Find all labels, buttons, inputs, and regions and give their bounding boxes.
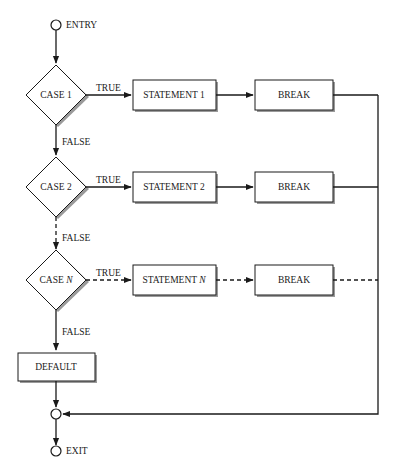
case-1-row: CASE 1 TRUE STATEMENT 1 BREAK [26, 65, 378, 127]
default-node: DEFAULT [18, 353, 97, 383]
entry-circle-icon [51, 20, 61, 30]
entry-label: ENTRY [66, 20, 97, 30]
case-2-label: CASE 2 [40, 182, 72, 192]
entry-node: ENTRY [51, 20, 97, 30]
case-1-true-label: TRUE [96, 83, 121, 93]
statement-1-label: STATEMENT 1 [143, 90, 205, 100]
case-2-false-label: FALSE [62, 233, 91, 243]
exit-label: EXIT [66, 446, 88, 456]
case-2-true-label: TRUE [96, 175, 121, 185]
case-n-label: CASE N [39, 275, 73, 285]
statement-n-label: STATEMENT N [142, 275, 206, 285]
case-n-true-label: TRUE [96, 268, 121, 278]
break-1-label: BREAK [278, 90, 310, 100]
exit-circle-icon [51, 446, 61, 456]
break-return-line [63, 95, 378, 414]
break-2-label: BREAK [278, 182, 310, 192]
switch-flowchart: ENTRY CASE 1 TRUE STATEMENT 1 BREAK FALS… [0, 0, 395, 467]
case-n-false-label: FALSE [62, 327, 91, 337]
case-n-row: CASE N TRUE STATEMENT N BREAK [26, 250, 378, 312]
merge-circle-icon [51, 409, 61, 419]
default-label: DEFAULT [35, 362, 77, 372]
case-2-row: CASE 2 TRUE STATEMENT 2 BREAK [26, 157, 378, 219]
exit-node: EXIT [51, 446, 88, 456]
statement-2-label: STATEMENT 2 [143, 182, 205, 192]
case-1-label: CASE 1 [40, 90, 72, 100]
case-1-false-label: FALSE [62, 137, 91, 147]
break-n-label: BREAK [278, 275, 310, 285]
